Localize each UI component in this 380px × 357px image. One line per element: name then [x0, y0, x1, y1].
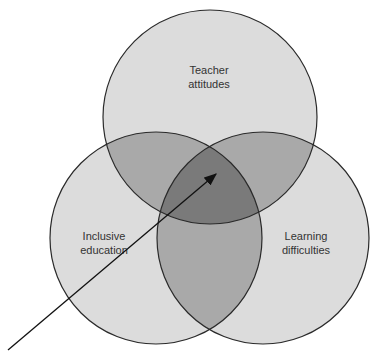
venn-diagram: Teacher attitudes Inclusive education Le… — [0, 0, 380, 357]
label-inclusive-line1: Inclusive — [83, 230, 126, 242]
label-teacher-line2: attitudes — [188, 78, 230, 90]
venn-svg: Teacher attitudes Inclusive education Le… — [0, 0, 380, 357]
label-learning-line1: Learning — [285, 230, 328, 242]
label-teacher-line1: Teacher — [189, 64, 228, 76]
label-learning-line2: difficulties — [282, 244, 331, 256]
